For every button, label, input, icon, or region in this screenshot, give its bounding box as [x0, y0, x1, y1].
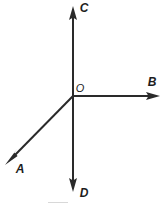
- ray-d-label: D: [80, 186, 89, 200]
- diagram-canvas: C D B A O: [0, 0, 166, 207]
- ray-a-label: A: [15, 162, 25, 176]
- ray-c-label: C: [80, 1, 89, 15]
- ray-b-label: B: [148, 75, 157, 89]
- ray-d-group: D: [69, 96, 89, 200]
- ray-b-group: B: [73, 75, 160, 100]
- ray-a-line: [15, 96, 73, 155]
- ray-a-group: A: [5, 96, 73, 176]
- ray-diagram-figure: C D B A O: [0, 0, 166, 207]
- origin-label: O: [76, 82, 85, 94]
- scan-artifact: [48, 202, 68, 203]
